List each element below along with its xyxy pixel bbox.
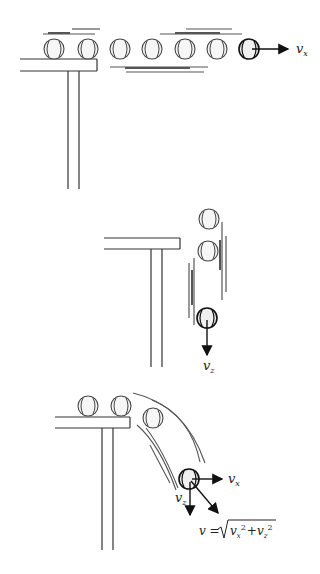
ball <box>78 39 98 59</box>
formula-lhs: v = <box>199 524 220 538</box>
diagram-canvas: vx vz <box>0 0 320 574</box>
panel-vertical: vz <box>104 209 226 375</box>
table <box>55 417 130 550</box>
resultant-arrow <box>191 481 218 513</box>
vx-label: vx <box>296 41 308 58</box>
ball <box>207 39 227 59</box>
table <box>20 59 97 189</box>
panel-combined: vx vz v = vx2+vz2 <box>55 393 276 550</box>
formula-radicand: vx2+vz2 <box>230 523 272 540</box>
table <box>104 238 180 367</box>
ball <box>175 39 195 59</box>
ball <box>198 241 218 261</box>
ball <box>44 39 64 59</box>
ball <box>142 39 162 59</box>
balls-horizontal <box>44 39 259 59</box>
ball <box>111 396 131 416</box>
balls-vertical <box>197 209 219 328</box>
vx-label: vx <box>228 471 240 488</box>
balls-combined <box>78 396 199 489</box>
vz-label: vz <box>175 490 187 507</box>
ball <box>199 209 219 229</box>
resultant-formula: v = vx2+vz2 <box>199 520 276 540</box>
panel-horizontal: vx <box>20 29 308 189</box>
ball <box>78 396 98 416</box>
ball <box>110 39 130 59</box>
ball <box>143 408 163 428</box>
vz-label: vz <box>203 358 215 375</box>
